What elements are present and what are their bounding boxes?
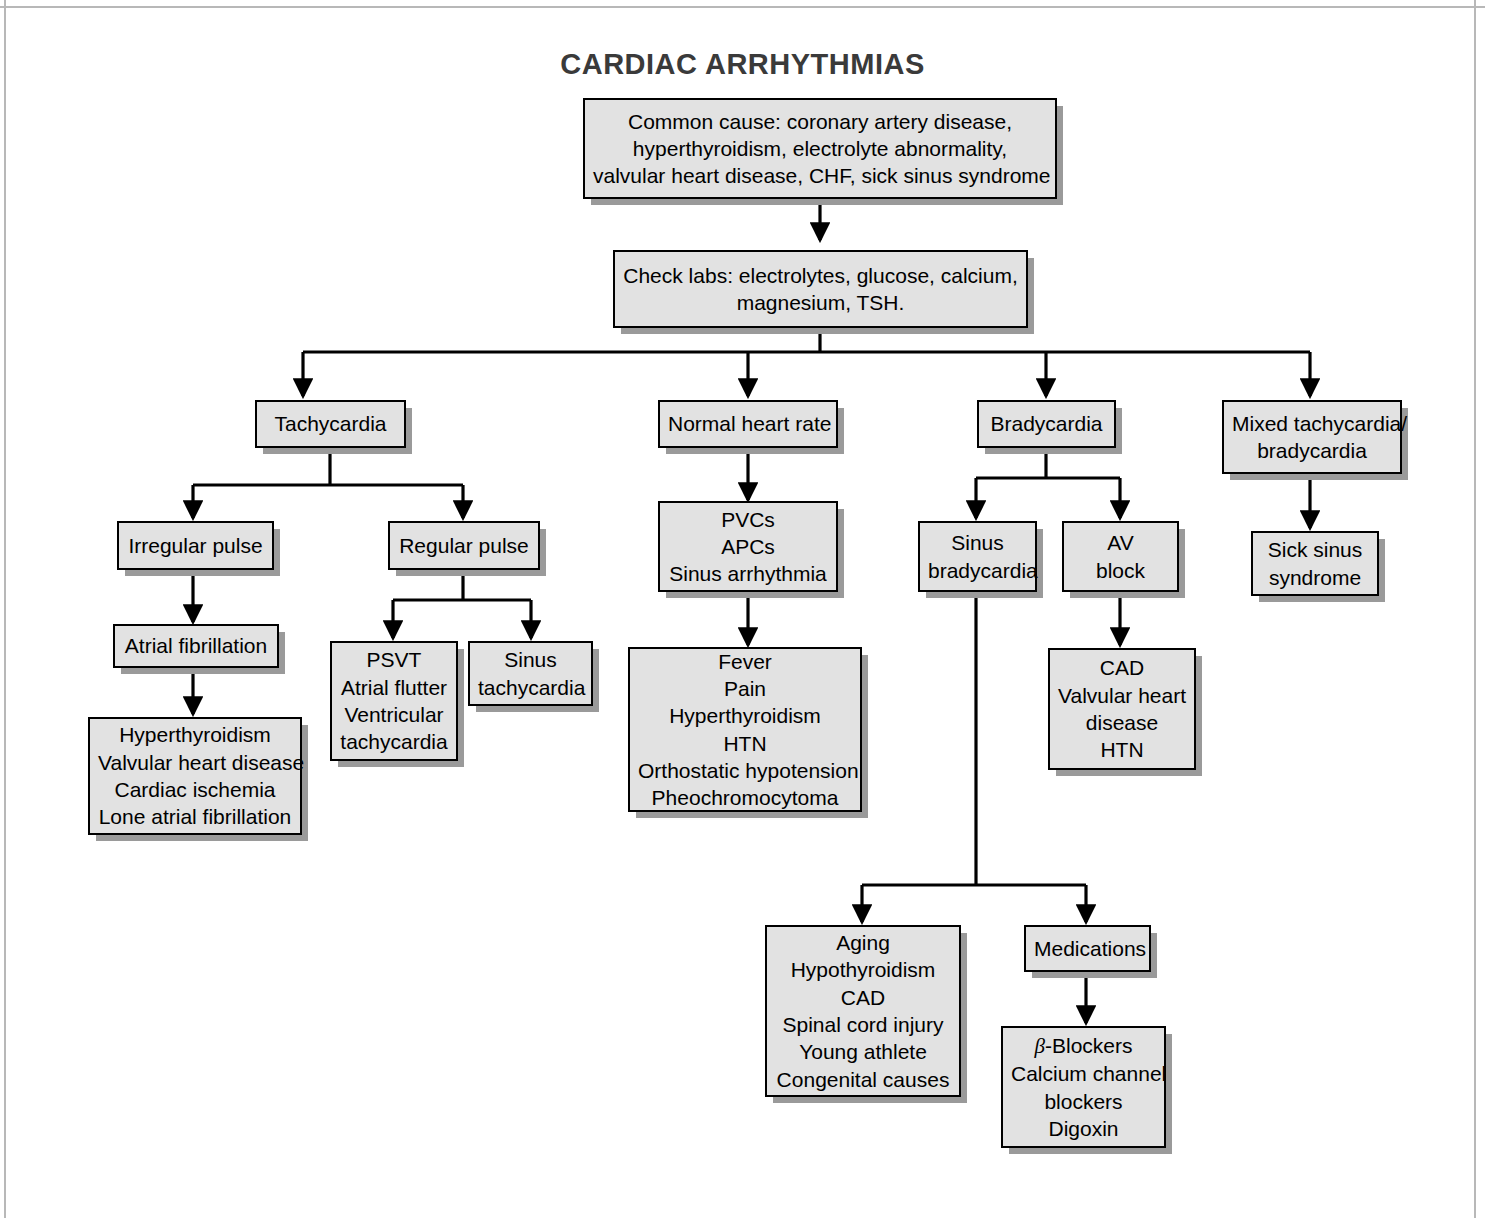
node-regular-pulse[interactable]: Regular pulse [388, 521, 540, 570]
node-line: Digoxin [1011, 1115, 1156, 1142]
page-edge-left [4, 0, 6, 1218]
node-line: Hypothyroidism [775, 956, 951, 983]
node-line: Pain [638, 675, 852, 702]
node-line: hyperthyroidism, electrolyte abnormality… [593, 135, 1047, 162]
node-line: disease [1058, 709, 1186, 736]
page-title: CARDIAC ARRHYTHMIAS [0, 48, 1485, 81]
node-line: Congenital causes [775, 1066, 951, 1093]
node-psvt-group[interactable]: PSVT Atrial flutter Ventricular tachycar… [330, 641, 458, 761]
node-line: HTN [638, 730, 852, 757]
node-line: Irregular pulse [127, 532, 264, 559]
node-line: Medications [1034, 935, 1141, 962]
node-line-beta-suffix: -Blockers [1045, 1034, 1133, 1057]
node-line: Sinus [928, 529, 1027, 556]
node-line: Fever [638, 648, 852, 675]
node-line: Valvular heart [1058, 682, 1186, 709]
node-sinus-tachycardia[interactable]: Sinus tachycardia [468, 641, 593, 706]
page-edge-top [0, 6, 1485, 8]
node-line: Bradycardia [987, 410, 1106, 437]
node-line: PVCs [668, 506, 828, 533]
node-line: Valvular heart disease [98, 749, 292, 776]
node-line: Orthostatic hypotension [638, 757, 852, 784]
node-line: HTN [1058, 736, 1186, 763]
node-sick-sinus-syndrome[interactable]: Sick sinus syndrome [1251, 531, 1379, 596]
node-medications[interactable]: Medications [1024, 925, 1151, 972]
node-line-beta: β-Blockers [1011, 1032, 1156, 1060]
node-line: AV [1072, 529, 1169, 556]
node-atrial-fibrillation[interactable]: Atrial fibrillation [113, 624, 279, 668]
node-common-cause[interactable]: Common cause: coronary artery disease, h… [583, 98, 1057, 199]
node-irregular-pulse[interactable]: Irregular pulse [117, 521, 274, 570]
node-line: Hyperthyroidism [638, 702, 852, 729]
node-line: Check labs: electrolytes, glucose, calci… [623, 262, 1018, 289]
node-line: Hyperthyroidism [98, 721, 292, 748]
node-line: Normal heart rate [668, 410, 828, 437]
node-line: block [1072, 557, 1169, 584]
node-line: Spinal cord injury [775, 1011, 951, 1038]
node-line: Young athlete [775, 1038, 951, 1065]
node-line: Calcium channel [1011, 1060, 1156, 1087]
node-atrial-fibrillation-causes[interactable]: Hyperthyroidism Valvular heart disease C… [88, 717, 302, 835]
node-line: Pheochromocytoma [638, 784, 852, 811]
node-line: Aging [775, 929, 951, 956]
node-line: Regular pulse [398, 532, 530, 559]
beta-symbol: β [1035, 1034, 1045, 1058]
node-line: Common cause: coronary artery disease, [593, 108, 1047, 135]
node-line: magnesium, TSH. [623, 289, 1018, 316]
node-sinus-bradycardia[interactable]: Sinus bradycardia [918, 521, 1037, 592]
node-line: CAD [1058, 654, 1186, 681]
node-line: tachycardia [340, 728, 448, 755]
node-line: bradycardia [1232, 437, 1392, 464]
node-line: Ventricular [340, 701, 448, 728]
node-line: Atrial flutter [340, 674, 448, 701]
node-av-block[interactable]: AV block [1062, 521, 1179, 592]
node-check-labs[interactable]: Check labs: electrolytes, glucose, calci… [613, 250, 1028, 328]
node-line: Sick sinus [1261, 536, 1369, 563]
node-medication-list[interactable]: β-Blockers Calcium channel blockers Digo… [1001, 1026, 1166, 1148]
flowchart-canvas: CARDIAC ARRHYTHMIAS [0, 0, 1485, 1218]
node-mixed-tachy-brady[interactable]: Mixed tachycardia/ bradycardia [1222, 400, 1402, 474]
node-line: Sinus arrhythmia [668, 560, 828, 587]
node-line: PSVT [340, 646, 448, 673]
node-line: bradycardia [928, 557, 1027, 584]
node-line: blockers [1011, 1088, 1156, 1115]
node-line: Lone atrial fibrillation [98, 803, 292, 830]
node-line: APCs [668, 533, 828, 560]
node-pvc-causes[interactable]: Fever Pain Hyperthyroidism HTN Orthostat… [628, 647, 862, 812]
node-line: Cardiac ischemia [98, 776, 292, 803]
page-edge-right [1474, 0, 1476, 1218]
node-line: Tachycardia [265, 410, 396, 437]
node-bradycardia-causes[interactable]: Aging Hypothyroidism CAD Spinal cord inj… [765, 925, 961, 1097]
node-pvcs[interactable]: PVCs APCs Sinus arrhythmia [658, 501, 838, 592]
node-line: tachycardia [478, 674, 583, 701]
node-line: Atrial fibrillation [123, 632, 269, 659]
node-line: valvular heart disease, CHF, sick sinus … [593, 162, 1047, 189]
node-normal-heart-rate[interactable]: Normal heart rate [658, 400, 838, 448]
node-tachycardia[interactable]: Tachycardia [255, 400, 406, 448]
node-line: Sinus [478, 646, 583, 673]
node-av-block-causes[interactable]: CAD Valvular heart disease HTN [1048, 648, 1196, 770]
node-line: CAD [775, 984, 951, 1011]
node-line: syndrome [1261, 564, 1369, 591]
node-bradycardia[interactable]: Bradycardia [977, 400, 1116, 448]
node-line: Mixed tachycardia/ [1232, 410, 1392, 437]
